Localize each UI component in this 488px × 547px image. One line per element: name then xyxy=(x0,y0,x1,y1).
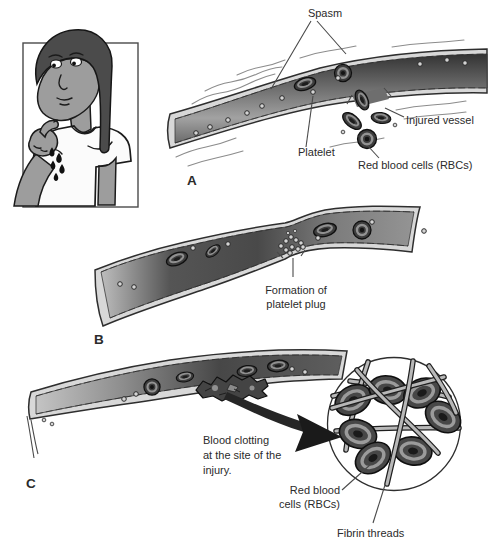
rbc-icon xyxy=(144,379,160,395)
panel-a: Spasm Injured vessel Platelet Red blood … xyxy=(168,7,487,188)
platelet-icon xyxy=(226,118,231,123)
platelet-icon xyxy=(42,418,46,422)
plug-label-line1: Formation of xyxy=(265,284,328,296)
platelet-icon xyxy=(50,422,54,426)
plug-label-line2: platelet plug xyxy=(266,298,325,310)
fibrin-leader xyxy=(373,485,385,523)
platelet-icon xyxy=(260,104,265,109)
platelet-icon xyxy=(294,238,299,243)
platelet-icon xyxy=(122,397,127,402)
rbc-icon xyxy=(340,109,365,132)
rbc-leader-a xyxy=(368,146,379,158)
platelet-icon xyxy=(341,130,345,134)
platelet-icon xyxy=(316,236,321,241)
platelet-icon xyxy=(226,242,231,247)
platelet-icon xyxy=(132,285,137,290)
person-illustration xyxy=(14,30,138,207)
platelet-icon xyxy=(418,62,423,67)
rbc-label-a: Red blood cells (RBCs) xyxy=(358,159,472,171)
platelet-icon xyxy=(290,245,295,250)
platelet-icon xyxy=(301,245,306,250)
platelet-icon xyxy=(445,58,450,63)
platelet-icon xyxy=(311,90,316,95)
panel-b: Formation of platelet plug B xyxy=(94,206,426,347)
injured-vessel-label: Injured vessel xyxy=(406,114,474,126)
platelet-icon xyxy=(118,282,123,287)
panel-c: Blood clotting at the site of the injury… xyxy=(26,350,467,539)
rbc-icon xyxy=(370,111,391,124)
platelet-icon xyxy=(290,367,295,372)
rbc-icon xyxy=(358,130,377,149)
hemostasis-canvas: Spasm Injured vessel Platelet Red blood … xyxy=(0,0,488,547)
platelet-icon xyxy=(293,229,296,232)
rbc-label-c-line1: Red blood xyxy=(290,484,340,496)
clot-label-line1: Blood clotting xyxy=(203,434,269,446)
platelet-icon xyxy=(370,220,375,225)
spasm-label: Spasm xyxy=(308,7,342,19)
platelet-icon xyxy=(245,111,250,116)
platelet-icon xyxy=(289,235,294,240)
platelet-icon xyxy=(288,251,293,256)
platelet-icon xyxy=(296,247,301,252)
platelet-icon xyxy=(279,244,284,249)
platelet-icon xyxy=(134,392,139,397)
platelet-icon xyxy=(393,123,397,127)
platelet-icon xyxy=(208,125,213,130)
platelet-icon xyxy=(191,246,196,251)
platelet-icon xyxy=(286,231,289,234)
vessel-c-cut-end xyxy=(27,416,38,458)
platelet-icon xyxy=(280,96,285,101)
platelet-icon xyxy=(303,370,308,375)
rbc-icon xyxy=(353,221,371,239)
platelet-icon xyxy=(284,239,289,244)
panel-letter-c: C xyxy=(26,476,36,491)
clot-label-line2: at the site of the xyxy=(203,449,281,461)
platelet-label: Platelet xyxy=(298,146,335,158)
panel-letter-a: A xyxy=(187,173,197,188)
platelet-icon xyxy=(463,61,468,66)
rbc-label-c-line2: cells (RBCs) xyxy=(279,498,340,510)
hemostasis-figure: Spasm Injured vessel Platelet Red blood … xyxy=(0,0,488,547)
platelet-icon xyxy=(336,76,341,81)
platelet-icon xyxy=(194,131,199,136)
platelet-icon xyxy=(422,229,427,234)
clot-label-line3: injury. xyxy=(203,464,232,476)
fibrin-label: Fibrin threads xyxy=(337,527,405,539)
panel-letter-b: B xyxy=(94,332,104,347)
